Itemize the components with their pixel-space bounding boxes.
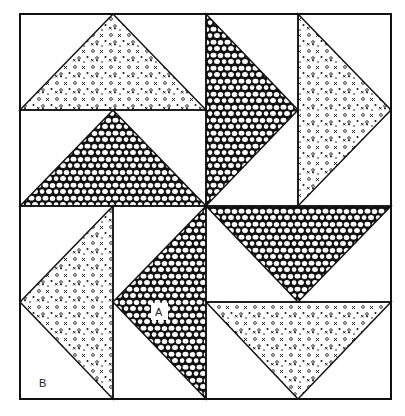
top-right-left-triangle bbox=[206, 14, 298, 206]
top-left-lower-triangle bbox=[20, 110, 206, 206]
label-a: A bbox=[155, 306, 163, 318]
top-right-right-triangle bbox=[298, 14, 391, 206]
bottom-right-upper-triangle bbox=[206, 206, 391, 302]
label-b: B bbox=[39, 377, 46, 389]
bottom-left-left-triangle bbox=[20, 206, 113, 399]
bottom-left-right-triangle bbox=[113, 206, 206, 399]
bottom-right-lower-triangle bbox=[206, 302, 391, 399]
quilt-block-diagram: A B bbox=[0, 0, 405, 416]
top-left-upper-triangle bbox=[20, 14, 206, 110]
